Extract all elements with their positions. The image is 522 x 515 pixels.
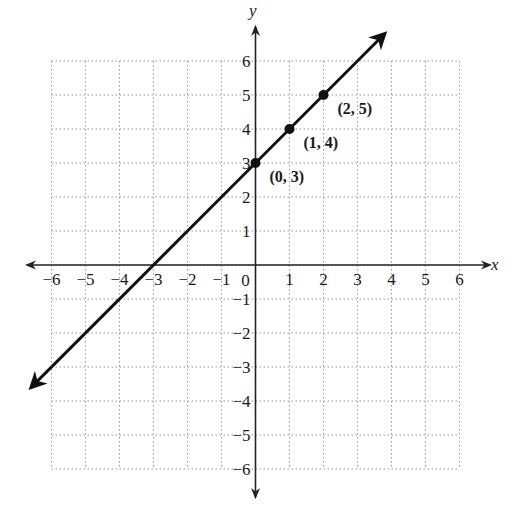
y-tick-label: −2 [232, 324, 250, 343]
x-tick-label: 3 [353, 270, 362, 289]
data-point [319, 90, 329, 100]
x-tick-label: −5 [76, 270, 94, 289]
x-tick-label: 1 [285, 270, 294, 289]
y-tick-label: 4 [242, 120, 251, 139]
x-axis-label: x [490, 255, 499, 274]
x-tick-label: −6 [42, 270, 60, 289]
y-tick-label: −6 [232, 460, 250, 479]
point-label: (0, 3) [270, 168, 305, 186]
x-tick-label: 6 [455, 270, 464, 289]
data-point [285, 124, 295, 134]
y-tick-label: −1 [232, 290, 250, 309]
x-tick-label: 0 [241, 271, 250, 290]
data-point [251, 158, 261, 168]
x-tick-label: −2 [178, 270, 196, 289]
y-tick-label: 1 [242, 222, 251, 241]
y-tick-label: −4 [232, 392, 251, 411]
y-tick-label: −3 [232, 358, 250, 377]
data-points: (0, 3)(1, 4)(2, 5) [251, 90, 373, 186]
y-tick-label: 2 [242, 188, 251, 207]
point-label: (2, 5) [338, 100, 373, 118]
x-tick-label: −4 [110, 270, 129, 289]
data-line [31, 34, 385, 388]
x-tick-label: 2 [319, 270, 328, 289]
y-tick-label: 5 [242, 86, 251, 105]
x-tick-label: 4 [387, 270, 396, 289]
line-y-equals-x-plus-3 [31, 34, 385, 388]
y-axis-label: y [247, 1, 257, 20]
y-tick-label: −5 [232, 426, 250, 445]
axes [27, 27, 490, 497]
x-tick-label: −1 [212, 270, 230, 289]
point-label: (1, 4) [304, 134, 339, 152]
y-tick-label: 6 [242, 52, 251, 71]
coordinate-plane: −6−5−4−3−2−10123456−6−5−4−3−2−1123456 (0… [0, 0, 522, 515]
x-tick-label: 5 [421, 270, 430, 289]
